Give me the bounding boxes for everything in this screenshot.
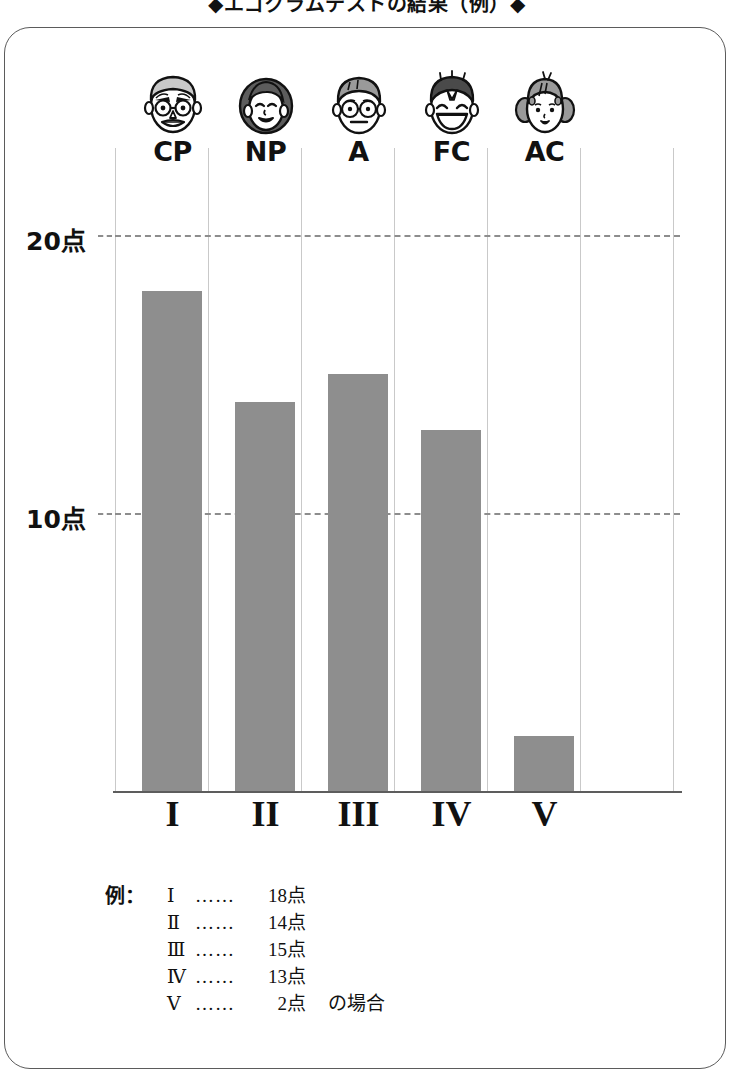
stern-man-face-icon [142,70,204,136]
legend-dots: …… [195,912,235,934]
xtick-label-3: III [312,796,405,832]
legend-suffix: の場合 [328,988,385,1015]
legend-value: 2 [235,993,287,1015]
xtick-label-1: I [126,796,219,832]
legend-row: Ⅰ …… 18 点 [167,880,385,907]
page-title: ◆エゴグラムテストの結果（例）◆ [0,0,734,17]
legend-dots: …… [195,939,235,961]
legend-row: Ⅲ …… 15 点 [167,934,385,961]
category-header-cp: CP [126,70,219,165]
category-code-np: NP [219,138,312,165]
legend-roman: Ⅱ [167,911,195,934]
legend-row: Ⅱ …… 14 点 [167,907,385,934]
legend-value: 13 [235,966,287,988]
xtick-label-2: II [219,796,312,832]
legend-value: 18 [235,885,287,907]
category-header-ac: AC [498,70,591,165]
category-code-ac: AC [498,138,591,165]
pigtail-girl-face-icon [514,70,576,136]
category-code-fc: FC [405,138,498,165]
legend-dots: …… [195,993,235,1015]
category-header-a: A [312,70,405,165]
legend-row: Ⅴ …… 2 点 の場合 [167,988,385,1015]
category-header-fc: FC [405,70,498,165]
legend-unit: 点 [287,961,306,988]
legend-roman: Ⅰ [167,884,195,907]
legend-dots: …… [195,885,235,907]
legend-row: Ⅳ …… 13 点 [167,961,385,988]
xtick-label-5: V [498,796,591,832]
legend-roman: Ⅴ [167,992,195,1015]
legend-unit: 点 [287,934,306,961]
legend-unit: 点 [287,907,306,934]
legend-roman: Ⅲ [167,938,195,961]
smiling-woman-face-icon [235,70,297,136]
serious-glasses-face-icon [328,70,390,136]
legend-heading: 例： [105,880,145,909]
xtick-label-4: IV [405,796,498,832]
legend-value: 15 [235,939,287,961]
category-header-np: NP [219,70,312,165]
legend-value: 14 [235,912,287,934]
laughing-boy-face-icon [421,70,483,136]
legend-rows: Ⅰ …… 18 点 Ⅱ …… 14 点 Ⅲ …… 15 点 Ⅳ …… 13 点 [167,880,385,1015]
legend-roman: Ⅳ [167,965,195,988]
legend-dots: …… [195,966,235,988]
legend-unit: 点 [287,880,306,907]
category-code-a: A [312,138,405,165]
category-code-cp: CP [126,138,219,165]
legend-unit: 点 [287,988,306,1015]
